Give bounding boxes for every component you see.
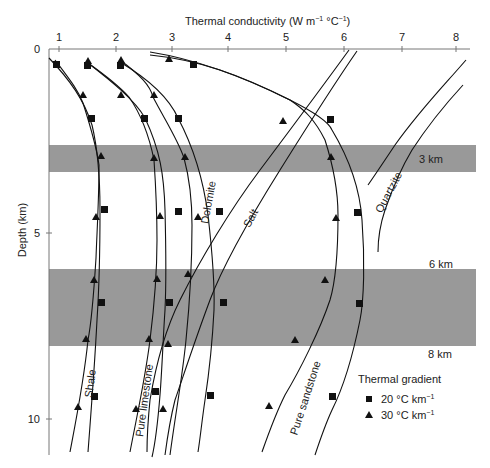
square-marker — [175, 115, 182, 122]
triangle-marker — [74, 403, 82, 410]
x-tick-label: 4 — [225, 31, 231, 43]
markers-30 — [74, 55, 340, 412]
quartzite-label: Quartzite — [373, 170, 405, 215]
triangle-marker — [79, 91, 87, 98]
legend-label-30: 30 °C km−1 — [381, 409, 434, 421]
triangle-marker — [92, 213, 100, 220]
band-6km-label: 6 km — [429, 258, 453, 270]
salt-label: Salt — [241, 207, 261, 229]
square-marker — [329, 393, 336, 400]
square-marker — [101, 206, 108, 213]
x-tick-label: 3 — [169, 31, 175, 43]
square-marker — [216, 208, 223, 215]
square-marker — [53, 61, 60, 68]
legend-square-icon — [366, 396, 372, 402]
square-marker — [207, 392, 214, 399]
x-tick-label: 7 — [399, 31, 405, 43]
square-marker — [190, 61, 197, 68]
y-tick-label: 5 — [34, 227, 40, 239]
square-marker — [141, 115, 148, 122]
square-marker — [88, 115, 95, 122]
y-tick-label: 10 — [28, 413, 40, 425]
square-marker — [327, 116, 334, 123]
x-tick-label: 5 — [283, 31, 289, 43]
x-tick-label: 6 — [341, 31, 347, 43]
band-6-8km — [49, 269, 476, 346]
legend-label-20: 20 °C km−1 — [381, 393, 434, 405]
triangle-marker — [117, 56, 125, 63]
triangle-marker — [159, 405, 167, 412]
dolomite-20-curve — [120, 62, 214, 452]
square-marker — [166, 299, 173, 306]
sandstone-label: Pure sandstone — [288, 359, 323, 436]
legend-triangle-icon — [365, 411, 373, 418]
legend-title: Thermal gradient — [358, 373, 441, 385]
triangle-marker — [279, 117, 287, 124]
band-3km — [49, 145, 476, 172]
y-tick-label: 0 — [34, 43, 40, 55]
x-tick-label: 8 — [453, 31, 459, 43]
square-marker — [356, 300, 363, 307]
x-tick-label: 2 — [113, 31, 119, 43]
band-8km-label: 8 km — [428, 348, 452, 360]
thermal-conductivity-chart: 1 2 3 4 5 6 7 8 Thermal conductivity (W … — [0, 0, 490, 468]
triangle-marker — [332, 214, 340, 221]
y-tick-labels: 0 5 10 — [28, 43, 40, 425]
x-tick-label: 1 — [56, 31, 62, 43]
band-3km-label: 3 km — [419, 153, 443, 165]
limestone-label: Pure limestone — [133, 363, 155, 437]
square-marker — [175, 208, 182, 215]
triangle-marker — [84, 57, 92, 64]
dolomite-label: Dolomite — [198, 180, 217, 225]
square-marker — [117, 62, 124, 69]
x-axis-title: Thermal conductivity (W m−1 °C−1) — [185, 15, 350, 27]
x-tick-labels: 1 2 3 4 5 6 7 8 — [56, 31, 459, 43]
salt-curve-b — [165, 51, 357, 455]
square-marker — [152, 388, 159, 395]
legend: Thermal gradient 20 °C km−1 30 °C km−1 — [358, 373, 441, 421]
square-marker — [98, 299, 105, 306]
square-marker — [354, 209, 361, 216]
triangle-marker — [265, 402, 273, 409]
square-marker — [220, 299, 227, 306]
y-axis-title: Depth (km) — [16, 203, 28, 257]
